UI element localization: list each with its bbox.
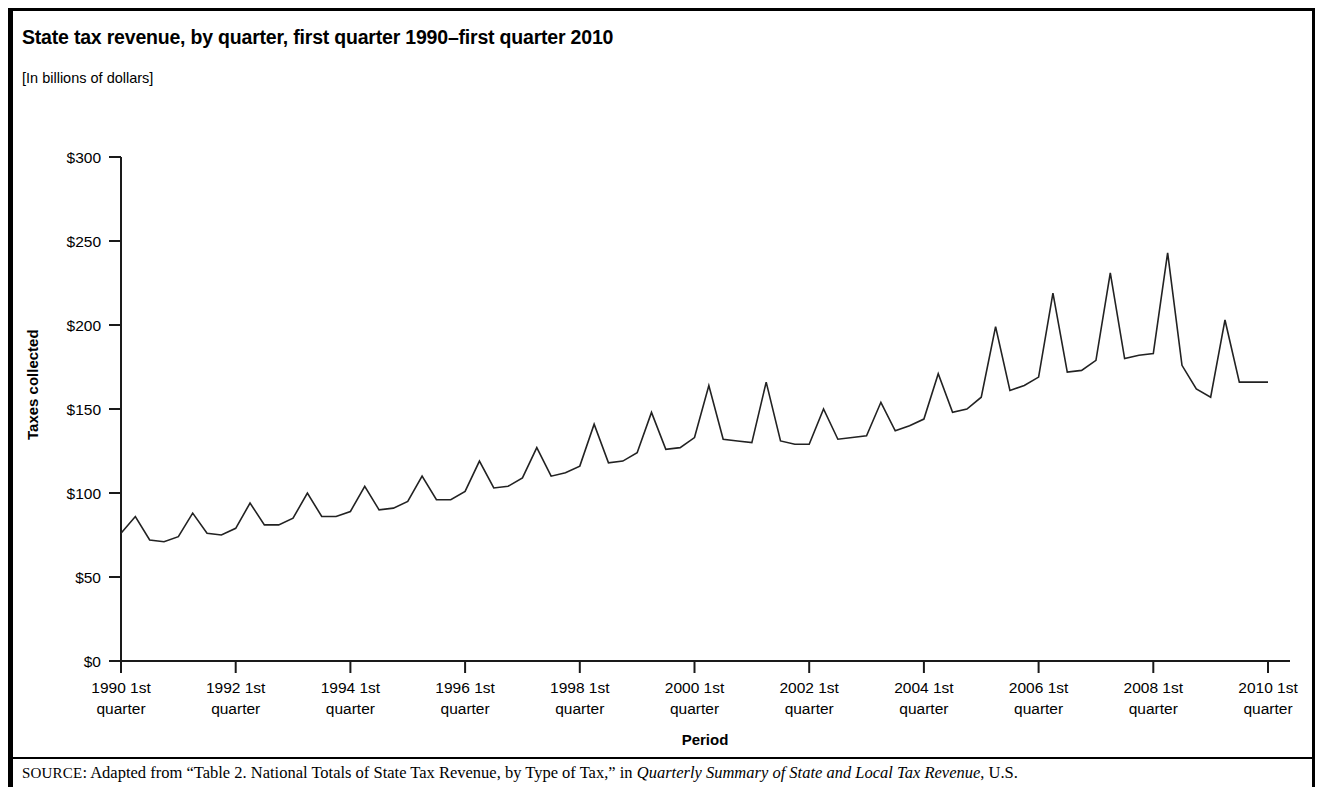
y-tick-label: $150 <box>67 401 102 418</box>
source-label: SOURCE <box>22 765 82 781</box>
figure-container: State tax revenue, by quarter, first qua… <box>0 0 1323 795</box>
x-tick-label: 1998 1stquarter <box>550 679 610 717</box>
x-tick-label: 1994 1stquarter <box>321 679 381 717</box>
y-tick-label: $250 <box>67 233 102 250</box>
y-tick-label: $50 <box>75 569 101 586</box>
y-tick-label: $0 <box>84 653 102 670</box>
x-tick-label: 2006 1stquarter <box>1009 679 1069 717</box>
y-axis-ticks <box>109 157 121 661</box>
source-note: SOURCE: Adapted from “Table 2. National … <box>22 764 1309 783</box>
x-tick-label: 2002 1stquarter <box>779 679 839 717</box>
y-tick-label: $300 <box>67 149 102 166</box>
y-tick-label: $200 <box>67 317 102 334</box>
x-axis-title: Period <box>682 731 729 748</box>
y-axis-tick-labels: $0$50$100$150$200$250$300 <box>67 149 102 670</box>
x-tick-label: 2008 1stquarter <box>1124 679 1184 717</box>
taxes-collected-series-line <box>121 253 1268 542</box>
source-text-part1: : Adapted from “Table 2. National Totals… <box>82 763 636 782</box>
x-tick-label: 2010 1stquarter <box>1238 679 1298 717</box>
chart-plot-area: $0$50$100$150$200$250$300 1990 1stquarte… <box>0 0 1323 795</box>
y-tick-label: $100 <box>67 485 102 502</box>
y-axis-title: Taxes collected <box>24 329 41 440</box>
source-divider <box>8 757 1315 759</box>
source-text-part2: , U.S. <box>980 763 1018 782</box>
x-axis-tick-labels: 1990 1stquarter1992 1stquarter1994 1stqu… <box>91 679 1298 717</box>
source-publication-title: Quarterly Summary of State and Local Tax… <box>637 763 981 782</box>
x-tick-label: 2004 1stquarter <box>894 679 954 717</box>
x-tick-label: 2000 1stquarter <box>665 679 725 717</box>
line-chart-svg: $0$50$100$150$200$250$300 1990 1stquarte… <box>0 0 1323 795</box>
x-tick-label: 1996 1stquarter <box>435 679 495 717</box>
x-tick-label: 1992 1stquarter <box>206 679 266 717</box>
x-tick-label: 1990 1stquarter <box>91 679 151 717</box>
x-axis-ticks <box>121 661 1268 673</box>
